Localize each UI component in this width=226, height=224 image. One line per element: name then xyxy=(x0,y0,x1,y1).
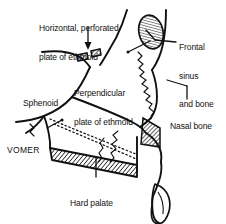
label-sphenoid: Sphenoid xyxy=(23,80,58,128)
label-vomer: VOMER xyxy=(7,127,40,175)
label-hard-palate: Hard palate xyxy=(70,180,113,224)
label-perpendicular-plate-line-1: Perpendicular xyxy=(74,89,133,99)
label-horizontal-plate-line-2: plate of ethmoid xyxy=(39,53,119,63)
pointer-dot-vomer xyxy=(60,118,63,121)
hard-palate-shape xyxy=(50,148,137,177)
label-sphenoid-text: Sphenoid xyxy=(23,99,58,109)
alveolar-right-contour xyxy=(153,162,161,196)
hard-palate-band xyxy=(50,148,137,177)
label-horizontal-plate-line-1: Horizontal, perforated xyxy=(39,24,119,34)
label-perpendicular-plate-of-ethmoid: Perpendicular plate of ethmoid xyxy=(74,70,133,146)
label-frontal-sinus-line-1: Frontal xyxy=(179,43,214,53)
incisor-front-face xyxy=(152,196,159,223)
label-nasal-bone: Nasal bone xyxy=(170,103,212,151)
incisor-inner-line xyxy=(158,192,163,214)
anatomy-diagram: Horizontal, perforated plate of ethmoid … xyxy=(0,0,226,224)
label-nasal-bone-text: Nasal bone xyxy=(170,122,212,132)
nasal-bone-wedge xyxy=(138,114,164,150)
label-vomer-text: VOMER xyxy=(7,146,40,156)
frontal-sinus-cavity xyxy=(130,8,174,60)
label-perpendicular-plate-line-2: plate of ethmoid xyxy=(74,118,133,128)
label-frontal-sinus-line-2: sinus xyxy=(179,72,214,82)
frontonasal-suture xyxy=(138,52,154,116)
label-hard-palate-text: Hard palate xyxy=(70,199,113,209)
